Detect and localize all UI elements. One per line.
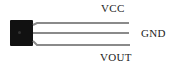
pin-label-gnd: GND [141,28,166,39]
pin-label-vout: VOUT [100,52,132,63]
pin-label-vcc: VCC [101,3,125,14]
lead-vout [33,41,130,45]
lead-vcc [33,23,129,25]
